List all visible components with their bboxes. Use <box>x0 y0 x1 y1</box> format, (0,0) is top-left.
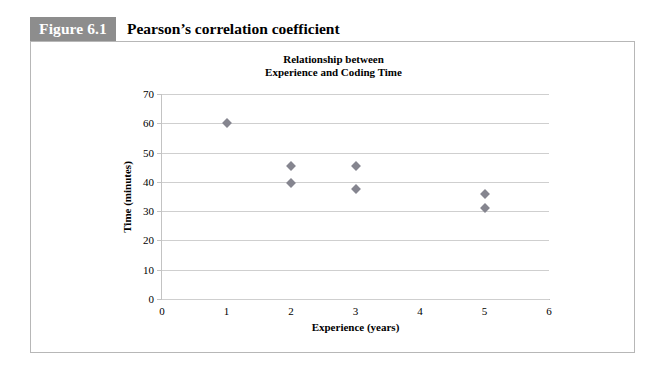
gridline <box>162 123 549 124</box>
x-tick-label: 2 <box>288 305 294 317</box>
y-tick-label: 50 <box>143 147 154 159</box>
x-tick-label: 3 <box>353 305 359 317</box>
data-point-marker <box>222 118 232 128</box>
data-point-marker <box>351 161 361 171</box>
x-axis-title: Experience (years) <box>162 321 549 333</box>
x-tick-label: 5 <box>482 305 488 317</box>
gridline <box>162 270 549 271</box>
y-axis-title-label: Time (minutes) <box>121 161 133 233</box>
data-point-marker <box>286 161 296 171</box>
data-point-marker <box>286 178 296 188</box>
data-point-marker <box>480 189 490 199</box>
gridline <box>162 153 549 154</box>
y-tick-label: 40 <box>143 176 154 188</box>
y-tick-label: 0 <box>149 293 155 305</box>
y-tick-mark <box>157 211 162 212</box>
y-tick-mark <box>157 123 162 124</box>
y-tick-label: 20 <box>143 234 154 246</box>
plot-area: 010203040506070 0123456 <box>162 94 549 299</box>
data-point-marker <box>351 184 361 194</box>
chart-title-line-2: Experience and Coding Time <box>31 66 636 79</box>
gridline <box>162 94 549 95</box>
chart-title: Relationship between Experience and Codi… <box>31 53 636 79</box>
y-tick-mark <box>157 182 162 183</box>
scatter-chart: Relationship between Experience and Codi… <box>31 42 636 354</box>
figure-header: Figure 6.1 Pearson’s correlation coeffic… <box>30 17 637 41</box>
y-tick-mark <box>157 153 162 154</box>
y-tick-label: 70 <box>143 88 154 100</box>
gridline <box>162 211 549 212</box>
x-tick-label: 4 <box>417 305 423 317</box>
x-tick-label: 6 <box>546 305 552 317</box>
chart-title-line-1: Relationship between <box>31 53 636 66</box>
y-tick-label: 60 <box>143 117 154 129</box>
y-tick-mark <box>157 94 162 95</box>
y-tick-mark <box>157 240 162 241</box>
y-tick-label: 10 <box>143 264 154 276</box>
gridline <box>162 240 549 241</box>
y-tick-mark <box>157 270 162 271</box>
figure-box: Relationship between Experience and Codi… <box>30 41 635 353</box>
y-axis-line <box>161 94 162 299</box>
x-tick-label: 0 <box>159 305 165 317</box>
gridline <box>162 299 549 300</box>
y-tick-label: 30 <box>143 205 154 217</box>
figure-caption: Pearson’s correlation coefficient <box>127 17 340 41</box>
y-tick-mark <box>157 299 162 300</box>
x-tick-label: 1 <box>224 305 230 317</box>
x-axis-title-label: Experience (years) <box>312 321 400 333</box>
figure-number-badge: Figure 6.1 <box>30 17 116 41</box>
